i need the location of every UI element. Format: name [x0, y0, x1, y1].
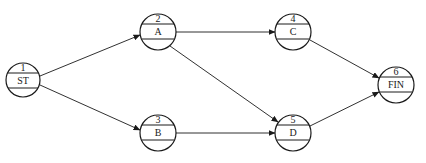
node-6-fin: 6 FIN	[378, 66, 414, 103]
node-number: 6	[394, 66, 399, 77]
node-number: 2	[156, 13, 161, 24]
node-number: 1	[21, 62, 26, 73]
edge-4-6	[310, 40, 379, 78]
edge-1-2	[40, 35, 140, 76]
edge-2-5	[170, 46, 278, 122]
node-label: FIN	[388, 79, 404, 90]
node-number: 3	[156, 114, 161, 125]
edge-5-6	[310, 92, 379, 126]
node-3-b: 3 B	[140, 114, 176, 151]
node-4-c: 4 C	[275, 13, 311, 50]
node-2-a: 2 A	[140, 13, 176, 50]
network-diagram: 1 ST 2 A 3 B 4 C 5 D 6 FIN	[0, 0, 426, 163]
node-label: ST	[17, 75, 29, 86]
node-label: A	[154, 26, 162, 37]
node-1-st: 1 ST	[6, 62, 40, 97]
node-label: D	[289, 127, 296, 138]
node-number: 4	[291, 13, 296, 24]
node-5-d: 5 D	[275, 114, 311, 151]
edge-1-3	[40, 85, 140, 130]
node-label: C	[290, 26, 297, 37]
node-number: 5	[291, 114, 296, 125]
node-label: B	[155, 127, 162, 138]
